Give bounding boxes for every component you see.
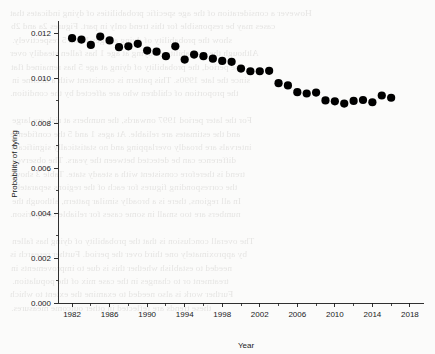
y-axis: 0.0000.0020.0040.0060.0080.0100.012 (31, 21, 58, 308)
data-point (293, 88, 301, 96)
x-tick-label: 2018 (401, 310, 419, 319)
data-point (246, 67, 254, 75)
y-tick-label: 0.008 (31, 119, 52, 128)
data-point (106, 36, 114, 44)
x-tick-label: 1982 (63, 310, 81, 319)
x-tick-label: 2010 (326, 310, 344, 319)
x-tick-label: 2006 (288, 310, 306, 319)
plot-canvas: 0.0000.0020.0040.0060.0080.0100.012 1982… (0, 0, 435, 354)
y-tick-label: 0.010 (31, 74, 52, 83)
data-point (312, 88, 320, 96)
data-point (190, 51, 198, 59)
y-tick-label: 0.006 (31, 164, 52, 173)
y-tick-label: 0.002 (31, 254, 52, 263)
x-tick-label: 1994 (176, 310, 194, 319)
data-point (350, 97, 358, 105)
data-point (68, 34, 76, 42)
data-point-series (68, 33, 395, 108)
data-point (181, 55, 189, 63)
data-point (218, 57, 226, 65)
data-point (368, 98, 376, 106)
data-point (387, 94, 395, 102)
x-tick-label: 2014 (363, 310, 381, 319)
data-point (303, 89, 311, 97)
data-point (284, 81, 292, 89)
data-point (199, 52, 207, 60)
x-tick-label: 1986 (101, 310, 119, 319)
scatter-plot-figure: 0.0000.0020.0040.0060.0080.0100.012 1982… (0, 0, 435, 354)
y-axis-title: Probability of dying (10, 130, 19, 198)
x-tick-label: 1990 (138, 310, 156, 319)
data-point (209, 55, 217, 63)
data-point (274, 79, 282, 87)
data-point (96, 33, 104, 41)
y-tick-label: 0.004 (31, 209, 52, 218)
data-point (134, 40, 142, 48)
data-point (152, 48, 160, 56)
data-point (237, 64, 245, 72)
data-point (331, 97, 339, 105)
data-point (87, 41, 95, 49)
y-tick-label: 0.000 (31, 299, 52, 308)
x-tick-label: 1998 (213, 310, 231, 319)
data-point (378, 91, 386, 99)
x-axis-title: Year (238, 341, 255, 350)
data-point (171, 42, 179, 50)
data-point (143, 46, 151, 54)
data-point (359, 96, 367, 104)
data-point (265, 67, 273, 75)
y-tick-label: 0.012 (31, 29, 52, 38)
data-point (228, 58, 236, 66)
data-point (321, 96, 329, 104)
data-point (124, 42, 132, 50)
data-point (340, 100, 348, 108)
x-axis: 1982198619901994199820022006201020142018 (58, 303, 424, 319)
data-point (256, 67, 264, 75)
x-tick-label: 2002 (251, 310, 269, 319)
data-point (115, 43, 123, 51)
data-point (162, 52, 170, 60)
data-point (77, 35, 85, 43)
